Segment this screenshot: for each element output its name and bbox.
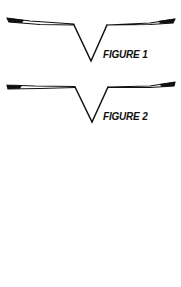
figure-2-drawing (7, 82, 175, 122)
figure-2-left-wing-fill (7, 85, 22, 89)
figure-2-label: FIGURE 2 (103, 112, 148, 122)
figure-1-drawing (7, 18, 175, 61)
diagram-svg (0, 0, 181, 287)
figure-1-right-wing-fill (158, 19, 175, 24)
figure-1-label: FIGURE 1 (103, 50, 148, 60)
diagram-canvas: FIGURE 1 FIGURE 2 (0, 0, 181, 287)
